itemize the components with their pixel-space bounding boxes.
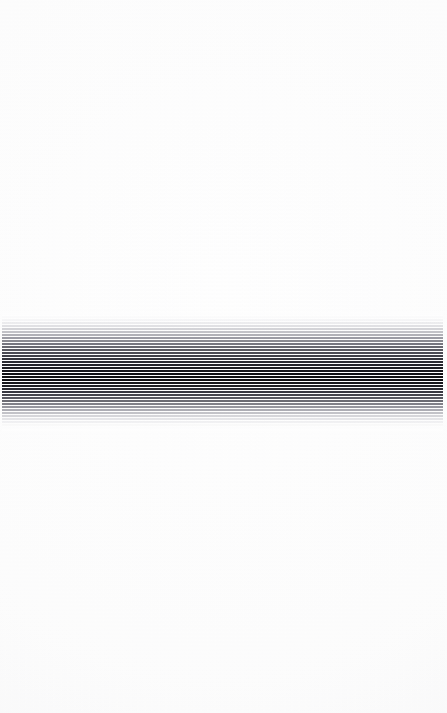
stripe-line [2, 415, 443, 417]
stripe-line [2, 364, 443, 366]
stripe-band [2, 313, 443, 431]
stripe-line [2, 355, 443, 357]
stripe-line [2, 322, 443, 324]
stripe-line [2, 334, 443, 336]
stripe-line [2, 397, 443, 399]
stripe-line [2, 379, 443, 381]
stripe-line [2, 346, 443, 348]
stripe-line [2, 340, 443, 342]
stripe-line [2, 316, 443, 318]
stripe-line [2, 358, 443, 360]
stripe-line [2, 382, 443, 384]
stripe-line [2, 376, 443, 378]
stripe-line [2, 424, 443, 426]
stripe-line [2, 400, 443, 402]
stripe-line [2, 313, 443, 315]
stripe-line [2, 409, 443, 411]
stripe-line [2, 337, 443, 339]
stripe-line [2, 394, 443, 396]
stripe-line [2, 412, 443, 414]
stripe-line [2, 385, 443, 387]
stripe-line [2, 361, 443, 363]
stripe-line [2, 373, 443, 375]
stripe-line [2, 388, 443, 390]
stripe-line [2, 367, 443, 369]
artwork-canvas: Horizontal Stripe Gradient Band Evenly s… [0, 0, 447, 713]
stripe-line [2, 319, 443, 321]
stripe-line [2, 403, 443, 405]
stripe-line [2, 331, 443, 333]
stripe-line [2, 370, 443, 372]
stripe-line [2, 427, 443, 429]
stripe-line [2, 418, 443, 420]
stripe-line [2, 406, 443, 408]
stripe-line [2, 325, 443, 327]
stripe-line [2, 352, 443, 354]
stripe-line [2, 343, 443, 345]
stripe-line [2, 391, 443, 393]
stripe-line [2, 421, 443, 423]
stripe-stack [2, 313, 443, 431]
stripe-line [2, 328, 443, 330]
stripe-line [2, 349, 443, 351]
